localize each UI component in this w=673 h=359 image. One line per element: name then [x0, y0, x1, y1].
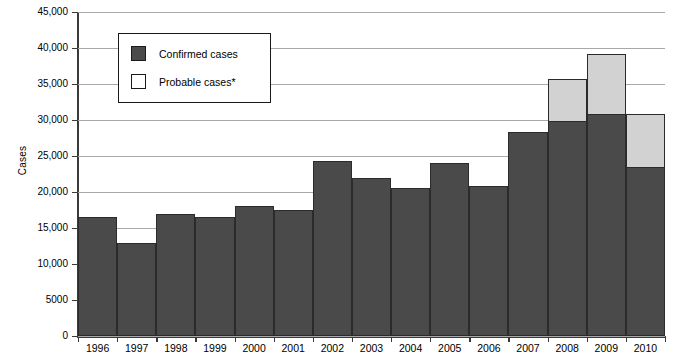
bar-group[interactable] — [548, 12, 587, 336]
bar-segment-probable[interactable] — [548, 79, 587, 122]
x-tick-mark — [508, 337, 509, 342]
y-tick-label: 15,000 — [6, 223, 68, 233]
bar-segment-confirmed[interactable] — [78, 217, 117, 336]
bar-group[interactable] — [391, 12, 430, 336]
y-tick-label: 0 — [6, 331, 68, 341]
y-tick-mark — [72, 120, 77, 121]
y-tick-mark — [72, 156, 77, 157]
bar-segment-probable[interactable] — [587, 54, 626, 114]
x-tick-mark — [274, 337, 275, 342]
y-tick-label: 30,000 — [6, 115, 68, 125]
x-tick-mark — [156, 337, 157, 342]
clipped-footnote — [380, 352, 673, 359]
x-tick-mark — [117, 337, 118, 342]
y-tick-mark — [72, 192, 77, 193]
bar-segment-confirmed[interactable] — [626, 167, 665, 336]
x-tick-label: 1997 — [115, 343, 159, 354]
bar-group[interactable] — [274, 12, 313, 336]
bar-segment-confirmed[interactable] — [117, 243, 156, 336]
y-tick-mark — [72, 84, 77, 85]
y-tick-mark — [72, 12, 77, 13]
bar-segment-confirmed[interactable] — [313, 161, 352, 336]
bar-group[interactable] — [352, 12, 391, 336]
chart-legend: Confirmed cases Probable cases* — [118, 33, 271, 103]
bar-group[interactable] — [313, 12, 352, 336]
bar-segment-confirmed[interactable] — [587, 114, 626, 336]
y-tick-mark — [72, 336, 77, 337]
y-tick-label: 10,000 — [6, 259, 68, 269]
bar-segment-confirmed[interactable] — [352, 178, 391, 336]
legend-entry-probable: Probable cases* — [131, 74, 235, 89]
x-tick-mark — [313, 337, 314, 342]
y-tick-label: 25,000 — [6, 151, 68, 161]
y-tick-mark — [72, 48, 77, 49]
x-tick-label: 1996 — [76, 343, 120, 354]
y-tick-mark — [72, 300, 77, 301]
legend-label-confirmed: Confirmed cases — [159, 48, 238, 60]
bar-segment-confirmed[interactable] — [274, 210, 313, 336]
bar-segment-confirmed[interactable] — [195, 217, 234, 336]
bar-segment-confirmed[interactable] — [391, 188, 430, 336]
bar-segment-confirmed[interactable] — [235, 206, 274, 336]
y-tick-mark — [72, 228, 77, 229]
x-tick-mark — [195, 337, 196, 342]
bar-group[interactable] — [508, 12, 547, 336]
y-tick-label: 45,000 — [6, 7, 68, 17]
bar-segment-confirmed[interactable] — [548, 121, 587, 336]
x-tick-label: 2000 — [232, 343, 276, 354]
bar-group[interactable] — [626, 12, 665, 336]
legend-entry-confirmed: Confirmed cases — [131, 46, 238, 61]
gridline — [78, 336, 665, 337]
bar-segment-probable[interactable] — [626, 114, 665, 168]
x-tick-mark — [78, 337, 79, 342]
y-tick-label: 5000 — [6, 295, 68, 305]
bar-group[interactable] — [587, 12, 626, 336]
x-tick-mark — [665, 337, 666, 342]
y-tick-mark — [72, 264, 77, 265]
bar-group[interactable] — [430, 12, 469, 336]
x-tick-mark — [235, 337, 236, 342]
bar-segment-confirmed[interactable] — [430, 163, 469, 336]
bar-chart: Cases 0500010,00015,00020,00025,00030,00… — [0, 0, 673, 359]
x-tick-label: 1998 — [154, 343, 198, 354]
bar-group[interactable] — [78, 12, 117, 336]
x-tick-label: 2001 — [271, 343, 315, 354]
y-tick-label: 20,000 — [6, 187, 68, 197]
legend-swatch-confirmed-icon — [131, 46, 146, 61]
x-tick-mark — [469, 337, 470, 342]
x-tick-mark — [391, 337, 392, 342]
bar-segment-confirmed[interactable] — [156, 214, 195, 336]
bar-segment-confirmed[interactable] — [508, 132, 547, 336]
x-tick-mark — [548, 337, 549, 342]
x-tick-label: 1999 — [193, 343, 237, 354]
x-tick-mark — [430, 337, 431, 342]
y-tick-label: 35,000 — [6, 79, 68, 89]
x-tick-label: 2002 — [310, 343, 354, 354]
legend-swatch-probable-icon — [131, 74, 146, 89]
y-tick-label: 40,000 — [6, 43, 68, 53]
x-tick-mark — [587, 337, 588, 342]
bar-segment-confirmed[interactable] — [469, 186, 508, 336]
bar-group[interactable] — [469, 12, 508, 336]
x-tick-mark — [626, 337, 627, 342]
legend-label-probable: Probable cases* — [159, 76, 235, 88]
x-tick-mark — [352, 337, 353, 342]
